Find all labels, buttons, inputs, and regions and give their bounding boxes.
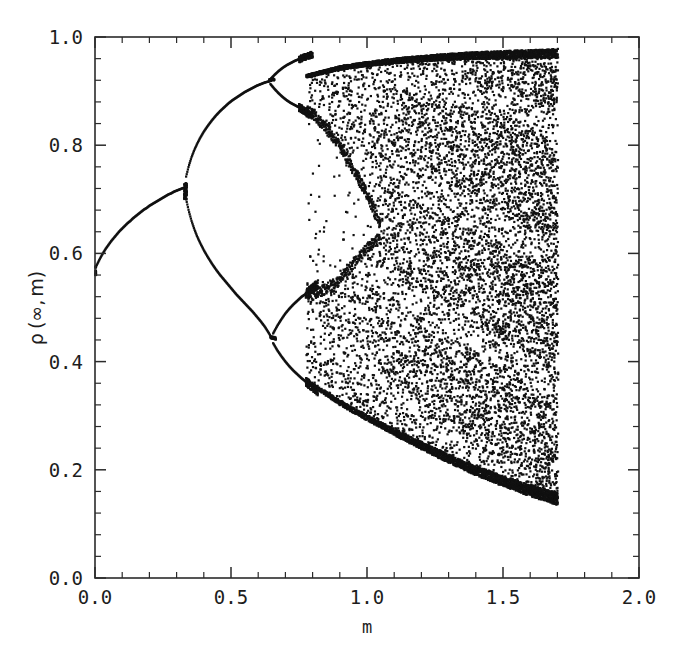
data-point <box>371 290 373 292</box>
y-tick-label: 1.0 <box>49 26 83 48</box>
data-point <box>490 406 492 408</box>
data-point <box>478 386 480 388</box>
data-point <box>395 228 397 230</box>
data-point <box>409 284 411 286</box>
data-point <box>537 390 539 392</box>
data-point <box>382 320 384 322</box>
data-point <box>521 416 523 418</box>
data-point <box>376 305 378 307</box>
data-point <box>553 253 555 255</box>
data-point <box>420 149 422 151</box>
data-point <box>488 138 490 140</box>
data-point <box>475 448 477 450</box>
data-point <box>424 374 426 376</box>
data-point <box>397 293 399 295</box>
data-point <box>415 354 417 356</box>
data-point <box>387 213 389 215</box>
data-point <box>415 80 417 82</box>
data-point <box>469 292 471 294</box>
data-point <box>527 215 529 217</box>
data-point <box>440 196 442 198</box>
data-point <box>350 80 352 82</box>
data-point <box>492 343 494 345</box>
data-point <box>443 314 445 316</box>
data-point <box>440 159 442 161</box>
data-point <box>332 315 334 317</box>
data-point <box>548 111 550 113</box>
data-point <box>396 262 398 264</box>
data-point <box>481 432 483 434</box>
data-point <box>445 252 447 254</box>
data-point <box>530 109 532 111</box>
data-point <box>388 373 390 375</box>
data-point <box>338 395 340 397</box>
data-point <box>544 224 546 226</box>
data-point <box>436 347 438 349</box>
data-point <box>352 149 354 151</box>
data-point <box>346 75 348 77</box>
data-point <box>443 198 445 200</box>
data-point <box>393 182 395 184</box>
data-point <box>527 182 529 184</box>
data-point <box>435 441 437 443</box>
data-point <box>411 289 413 291</box>
data-point <box>378 369 380 371</box>
data-point <box>462 394 464 396</box>
data-point <box>472 127 474 129</box>
data-point <box>318 196 320 198</box>
data-point <box>480 159 482 161</box>
data-point <box>490 222 492 224</box>
data-point <box>428 336 430 338</box>
data-point <box>511 394 513 396</box>
data-point <box>513 279 515 281</box>
data-point <box>530 407 532 409</box>
data-point <box>551 442 553 444</box>
data-point <box>555 197 557 199</box>
data-point <box>187 166 189 168</box>
data-point <box>464 430 466 432</box>
data-point <box>336 395 338 397</box>
data-point <box>459 370 461 372</box>
data-point <box>477 389 479 391</box>
data-point <box>308 115 310 117</box>
data-point <box>513 287 515 289</box>
data-point <box>347 98 349 100</box>
data-point <box>435 70 437 72</box>
data-point <box>417 315 419 317</box>
data-point <box>556 304 558 306</box>
data-point <box>530 243 532 245</box>
data-point <box>476 408 478 410</box>
data-point <box>480 277 482 279</box>
data-point <box>429 302 431 304</box>
data-point <box>313 342 315 344</box>
data-point <box>188 164 190 166</box>
data-point <box>371 77 373 79</box>
data-point <box>453 78 455 80</box>
data-point <box>393 86 395 88</box>
data-point <box>445 351 447 353</box>
data-point <box>484 268 486 270</box>
data-point <box>418 402 420 404</box>
data-point <box>538 335 540 337</box>
data-point <box>434 119 436 121</box>
data-point <box>483 419 485 421</box>
data-point <box>377 344 379 346</box>
data-point <box>535 223 537 225</box>
data-point <box>327 304 329 306</box>
data-point <box>495 328 497 330</box>
data-point <box>527 481 529 483</box>
data-point <box>458 266 460 268</box>
data-point <box>530 340 532 342</box>
data-point <box>448 160 450 162</box>
data-point <box>438 307 440 309</box>
data-point <box>363 329 365 331</box>
data-point <box>467 389 469 391</box>
data-point <box>530 145 532 147</box>
data-point <box>318 249 320 251</box>
data-point <box>526 297 528 299</box>
data-point <box>414 141 416 143</box>
data-point <box>427 390 429 392</box>
data-point <box>485 181 487 183</box>
data-point <box>550 92 552 94</box>
data-point <box>556 402 558 404</box>
